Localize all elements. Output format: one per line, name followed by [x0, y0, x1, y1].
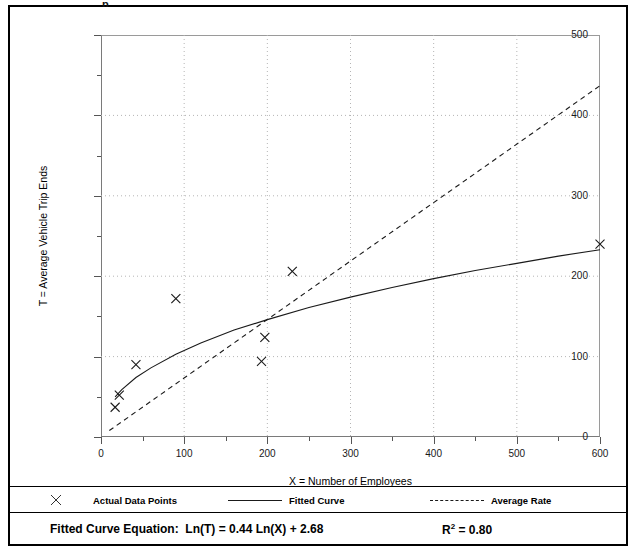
data-point-marker: [111, 403, 120, 412]
x-tick-major: [267, 437, 268, 444]
y-tick-major: [94, 196, 101, 197]
r-squared: R2 = 0.80: [442, 522, 492, 537]
legend-label: Fitted Curve: [289, 495, 344, 506]
r-squared-value: = 0.80: [455, 523, 492, 537]
y-tick-major: [94, 115, 101, 116]
chart-legend: Actual Data Points Fitted Curve Average …: [10, 486, 626, 513]
x-tick-major: [434, 437, 435, 444]
y-tick-label: 100: [571, 352, 588, 362]
y-tick-label: 0: [582, 432, 588, 442]
y-tick-minor: [97, 397, 101, 398]
legend-label: Average Rate: [491, 495, 551, 506]
legend-label: Actual Data Points: [93, 495, 177, 506]
legend-item-actual-data-points: Actual Data Points: [32, 493, 177, 507]
y-tick-major: [94, 437, 101, 438]
y-tick-label: 300: [571, 191, 588, 201]
data-point-marker: [171, 294, 180, 303]
y-tick-major: [94, 357, 101, 358]
data-point-marker: [288, 267, 297, 276]
equation-label: Fitted Curve Equation:: [50, 522, 179, 536]
x-tick-label: 300: [331, 449, 371, 459]
y-tick-label: 500: [571, 30, 588, 40]
y-tick-minor: [97, 156, 101, 157]
y-tick-major: [94, 35, 101, 36]
legend-item-average-rate: Average Rate: [430, 493, 551, 507]
fitted-curve-equation: Fitted Curve Equation: Ln(T) = 0.44 Ln(X…: [50, 522, 323, 536]
x-tick-label: 600: [580, 449, 620, 459]
x-tick-minor: [226, 437, 227, 441]
data-layer: [101, 35, 600, 437]
x-tick-minor: [143, 437, 144, 441]
y-tick-minor: [97, 236, 101, 237]
solid-line-icon: [228, 494, 282, 506]
y-tick-major: [94, 276, 101, 277]
series-line: [109, 86, 600, 431]
x-tick-label: 500: [497, 449, 537, 459]
y-tick-label: 400: [571, 110, 588, 120]
x-tick-major: [184, 437, 185, 444]
x-tick-minor: [392, 437, 393, 441]
x-tick-minor: [558, 437, 559, 441]
data-point-marker: [131, 360, 140, 369]
y-tick-label: 200: [571, 271, 588, 281]
data-point-marker: [596, 240, 605, 249]
y-axis-title: T = Average Vehicle Trip Ends: [37, 166, 49, 307]
equation-row: Fitted Curve Equation: Ln(T) = 0.44 Ln(X…: [10, 512, 626, 545]
x-marker-icon: [32, 494, 86, 506]
title-fragment: p: [102, 0, 109, 7]
data-point-marker: [257, 357, 266, 366]
series-line: [115, 250, 600, 397]
x-tick-label: 0: [81, 449, 121, 459]
x-tick-label: 100: [164, 449, 204, 459]
chart-figure: p 0100200300400500 0100200300400500600 T…: [8, 5, 628, 546]
x-tick-minor: [309, 437, 310, 441]
x-tick-major: [600, 437, 601, 444]
plot-area: 0100200300400500 0100200300400500600 T =…: [101, 35, 600, 437]
y-tick-minor: [97, 316, 101, 317]
y-tick-minor: [97, 75, 101, 76]
x-tick-label: 400: [414, 449, 454, 459]
dashed-line-icon: [430, 494, 484, 506]
data-point-marker: [260, 333, 269, 342]
r-squared-label: R: [442, 523, 451, 537]
x-tick-minor: [475, 437, 476, 441]
x-tick-major: [351, 437, 352, 444]
x-tick-major: [517, 437, 518, 444]
equation-value: Ln(T) = 0.44 Ln(X) + 2.68: [185, 522, 323, 536]
legend-item-fitted-curve: Fitted Curve: [228, 493, 344, 507]
x-tick-major: [101, 437, 102, 444]
x-tick-label: 200: [247, 449, 287, 459]
